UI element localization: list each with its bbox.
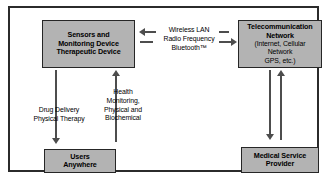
drug-delivery-line: [55, 70, 57, 140]
diagram-canvas: Sensors and Monitoring Device Therapeuti…: [0, 0, 329, 181]
drug-delivery-label-line-1: Drug Delivery: [22, 106, 96, 115]
node-users-anywhere: Users Anywhere: [44, 149, 116, 173]
health-label-line-4: Biochemical: [96, 114, 150, 123]
edge-label-wireless: Wireless LAN Radio Frequency Bluetooth™: [148, 26, 230, 52]
node-telecom-sub-2: Network: [268, 48, 293, 56]
node-medical-service-provider: Medical Service Provider: [241, 147, 319, 173]
node-provider-line-2: Provider: [266, 160, 294, 168]
diagram-frame: Sensors and Monitoring Device Therapeuti…: [8, 6, 319, 172]
edge-label-drug-delivery: Drug Delivery Physical Therapy: [22, 106, 96, 124]
telecom-to-provider-arrow-down-icon: [266, 134, 274, 140]
provider-to-telecom-line: [280, 76, 282, 140]
edge-label-health-monitoring: Health Monitoring, Physical and Biochemi…: [96, 88, 150, 123]
provider-to-telecom-arrow-up-icon: [277, 70, 285, 76]
node-sensors-monitoring-device: Sensors and Monitoring Device Therapeuti…: [42, 20, 135, 68]
wireless-arrow-right-icon: [231, 38, 237, 46]
telecom-to-provider-line: [269, 70, 271, 136]
health-label-line-1: Health: [96, 88, 150, 97]
wireless-label-line-3: Bluetooth™: [148, 44, 230, 53]
node-sensors-line-3: Therapeutic Device: [56, 48, 120, 56]
health-label-line-2: Monitoring,: [96, 97, 150, 106]
drug-delivery-arrow-down-icon: [52, 138, 60, 144]
wireless-label-line-1: Wireless LAN: [148, 26, 230, 35]
node-telecommunication-network: Telecommunication Network (Internet, Cel…: [238, 20, 322, 68]
node-telecom-sub-1: (Internet, Cellular: [255, 40, 306, 48]
health-label-line-3: Physical and: [96, 106, 150, 115]
wireless-label-line-2: Radio Frequency: [148, 35, 230, 44]
node-telecom-sub-3: GPS, etc.): [265, 57, 296, 65]
health-monitoring-arrow-up-icon: [112, 70, 120, 76]
node-telecom-title-2: Network: [266, 32, 294, 40]
drug-delivery-label-line-2: Physical Therapy: [22, 115, 96, 124]
node-users-line-2: Anywhere: [63, 161, 97, 169]
